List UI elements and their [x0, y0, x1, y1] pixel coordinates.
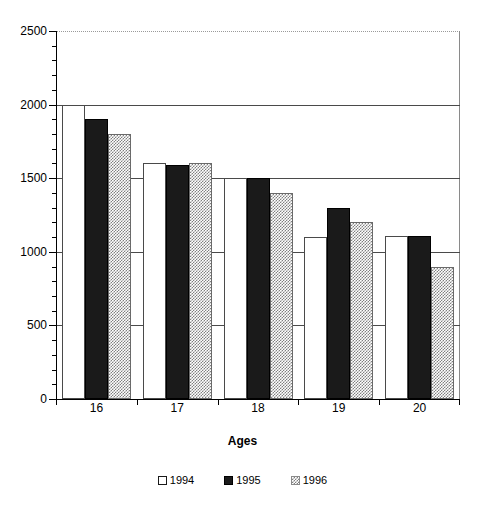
- y-tick-major-2500: [49, 31, 56, 32]
- bar-group-18: [224, 31, 293, 399]
- y-tick-minor-1900: [52, 119, 56, 120]
- y-tick-minor-2400: [52, 46, 56, 47]
- bar-1995-age-19[interactable]: [327, 208, 350, 399]
- bar-1996-age-16[interactable]: [108, 134, 131, 399]
- bar-1994-age-18[interactable]: [224, 178, 247, 399]
- bar-1996-age-17[interactable]: [189, 163, 212, 399]
- bar-1995-age-20[interactable]: [408, 236, 431, 399]
- y-tick-minor-1300: [52, 208, 56, 209]
- y-tick-minor-800: [52, 281, 56, 282]
- y-tick-minor-600: [52, 311, 56, 312]
- bar-1994-age-17[interactable]: [143, 163, 166, 399]
- bar-1996-age-20[interactable]: [431, 267, 454, 399]
- legend-entry-1995: 1995: [224, 474, 260, 487]
- bar-1995-age-16[interactable]: [85, 119, 108, 399]
- y-tick-label-2000: 2000: [20, 99, 47, 111]
- bar-1995-age-17[interactable]: [166, 165, 189, 399]
- y-tick-minor-2300: [52, 60, 56, 61]
- chart-legend: 1994 1995 1996: [0, 474, 485, 487]
- bar-chart: 05001000150020002500 1617181920 Ages 199…: [0, 0, 485, 512]
- y-tick-major-1000: [49, 252, 56, 253]
- bar-group-19: [304, 31, 373, 399]
- y-tick-minor-1700: [52, 149, 56, 150]
- bar-group-20: [385, 31, 454, 399]
- y-tick-label-0: 0: [40, 393, 47, 405]
- y-axis-line: [56, 31, 57, 400]
- y-tick-label-1500: 1500: [20, 172, 47, 184]
- y-tick-minor-400: [52, 340, 56, 341]
- legend-label-1995: 1995: [236, 474, 260, 487]
- x-tick-label-20: 20: [379, 401, 460, 415]
- y-tick-minor-1200: [52, 222, 56, 223]
- bar-1994-age-16[interactable]: [62, 105, 85, 399]
- bar-1996-age-18[interactable]: [270, 193, 293, 399]
- y-tick-major-2000: [49, 105, 56, 106]
- y-tick-major-500: [49, 325, 56, 326]
- y-tick-label-1000: 1000: [20, 246, 47, 258]
- y-tick-label-500: 500: [27, 319, 47, 331]
- bar-1994-age-20[interactable]: [385, 236, 408, 399]
- bar-group-17: [143, 31, 212, 399]
- y-tick-minor-900: [52, 267, 56, 268]
- y-tick-minor-200: [52, 370, 56, 371]
- y-tick-minor-2100: [52, 90, 56, 91]
- bars-layer: [56, 31, 460, 400]
- y-tick-minor-1400: [52, 193, 56, 194]
- y-tick-minor-2200: [52, 75, 56, 76]
- y-tick-minor-1600: [52, 163, 56, 164]
- x-tick-label-17: 17: [137, 401, 218, 415]
- x-tick-label-19: 19: [298, 401, 379, 415]
- bar-group-16: [62, 31, 131, 399]
- y-tick-minor-1800: [52, 134, 56, 135]
- bar-1995-age-18[interactable]: [247, 178, 270, 399]
- y-tick-major-1500: [49, 178, 56, 179]
- x-tick-label-18: 18: [218, 401, 299, 415]
- legend-label-1994: 1994: [170, 474, 194, 487]
- y-tick-label-2500: 2500: [20, 25, 47, 37]
- y-tick-minor-700: [52, 296, 56, 297]
- x-axis-tick-labels: 1617181920: [56, 401, 460, 417]
- plot-area: [56, 31, 460, 400]
- legend-swatch-1995-icon: [224, 476, 233, 485]
- legend-entry-1994: 1994: [158, 474, 194, 487]
- bar-1994-age-19[interactable]: [304, 237, 327, 399]
- x-tick-label-16: 16: [56, 401, 137, 415]
- legend-entry-1996: 1996: [291, 474, 327, 487]
- y-tick-minor-100: [52, 384, 56, 385]
- legend-label-1996: 1996: [303, 474, 327, 487]
- y-tick-minor-1100: [52, 237, 56, 238]
- legend-swatch-1994-icon: [158, 476, 167, 485]
- bar-1996-age-19[interactable]: [350, 222, 373, 399]
- y-tick-major-0: [49, 399, 56, 400]
- x-axis-title: Ages: [0, 434, 485, 448]
- y-axis-tick-labels: 05001000150020002500: [0, 31, 47, 400]
- legend-swatch-1996-icon: [291, 476, 300, 485]
- y-tick-minor-300: [52, 355, 56, 356]
